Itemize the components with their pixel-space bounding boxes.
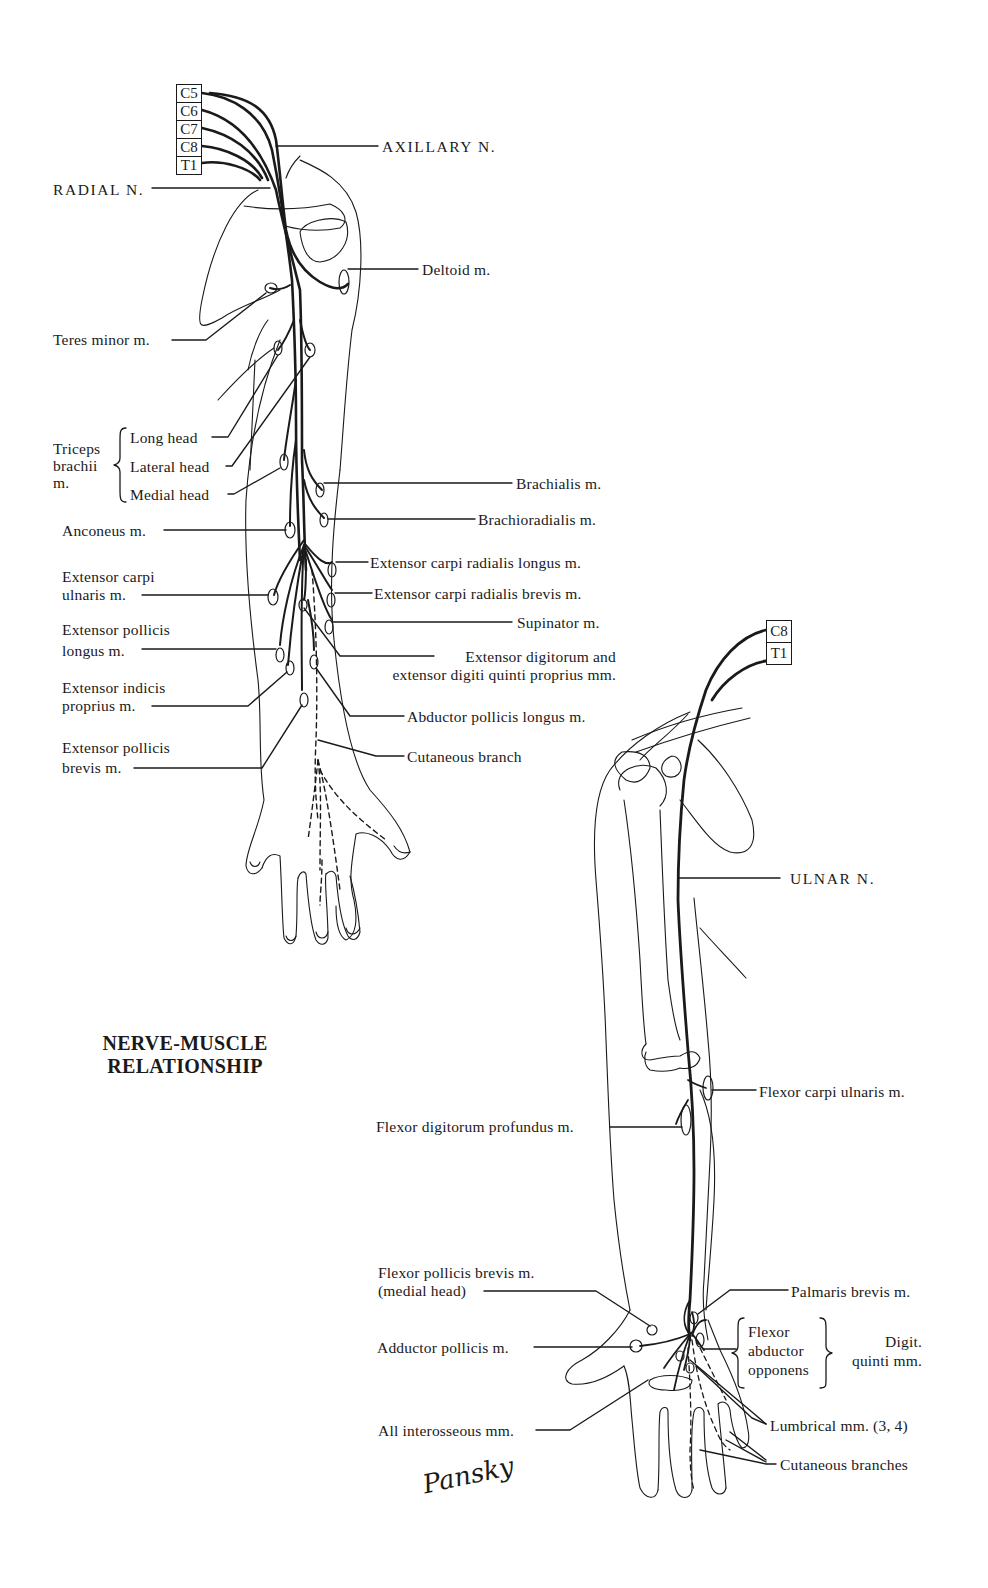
brachioradialis-label: Brachioradialis m.	[478, 510, 596, 529]
ulnar-leader-lines	[484, 878, 788, 1464]
extensor-pollicis-brevis-label: Extensor pollicis brevis m.	[62, 738, 170, 778]
extensor-pollicis-longus-label: Extensor pollicis longus m.	[62, 619, 170, 661]
radial-cutaneous-branch	[308, 570, 386, 905]
flexor-carpi-ulnaris-label: Flexor carpi ulnaris m.	[759, 1082, 905, 1101]
flexor-pollicis-brevis-label: Flexor pollicis brevis m. (medial head)	[378, 1264, 535, 1300]
ulnar-cutaneous-branches-label: Cutaneous branches	[780, 1455, 908, 1474]
ecrl-label: Extensor carpi radialis longus m.	[370, 553, 581, 572]
lateral-head-label: Lateral head	[130, 457, 209, 476]
medial-head-label: Medial head	[130, 485, 209, 504]
palmaris-brevis-label: Palmaris brevis m.	[791, 1282, 910, 1301]
title-line-2: RELATIONSHIP	[60, 1055, 310, 1078]
radial-root-box: C5 C6 C7 C8 T1	[176, 84, 202, 175]
ulnar-nerve-trunk	[678, 630, 766, 1340]
supinator-label: Supinator m.	[517, 613, 599, 632]
flexor-digitorum-profundus-label: Flexor digitorum profundus m.	[376, 1117, 574, 1136]
page-title: NERVE-MUSCLE RELATIONSHIP	[60, 1032, 310, 1078]
brachialis-label: Brachialis m.	[516, 474, 601, 493]
root-c5: C5	[177, 85, 201, 103]
root-c8: C8	[177, 139, 201, 157]
root-t1: T1	[177, 157, 201, 174]
triceps-group-label: Triceps brachii m.	[53, 440, 100, 491]
ulnar-root-box: C8 T1	[766, 620, 792, 665]
ulnar-arm-outline	[566, 708, 754, 1498]
triceps-line-2: brachii	[53, 457, 100, 474]
anconeus-label: Anconeus m.	[62, 521, 146, 540]
deltoid-label: Deltoid m.	[422, 260, 490, 279]
abductor-pollicis-longus-label: Abductor pollicis longus m.	[407, 707, 585, 726]
radial-nerve-label: RADIAL N.	[53, 180, 144, 199]
digiti-quinti-muscles-list: Flexor abductor opponens	[748, 1322, 809, 1379]
ecrb-label: Extensor carpi radialis brevis m.	[374, 584, 582, 603]
ulnar-muscle-markers	[630, 1076, 713, 1373]
braces	[114, 428, 832, 1388]
lumbrical-label: Lumbrical mm. (3, 4)	[770, 1416, 908, 1435]
triceps-line-3: m.	[53, 474, 100, 491]
long-head-label: Long head	[130, 428, 198, 447]
teres-minor-label: Teres minor m.	[53, 330, 150, 349]
ulnar-nerve-label: ULNAR N.	[790, 869, 875, 888]
axillary-nerve-label: AXILLARY N.	[382, 137, 496, 156]
title-line-1: NERVE-MUSCLE	[60, 1032, 310, 1055]
radial-cutaneous-branch-label: Cutaneous branch	[407, 747, 522, 766]
triceps-line-1: Triceps	[53, 440, 100, 457]
root-t1: T1	[767, 643, 791, 664]
interosseous-label: All interosseous mm.	[378, 1421, 514, 1440]
root-c8: C8	[767, 621, 791, 643]
digiti-quinti-group-label: Digit. quinti mm.	[830, 1332, 922, 1370]
root-c6: C6	[177, 103, 201, 121]
radial-nerve-trunks	[202, 93, 348, 570]
extensor-carpi-ulnaris-label: Extensor carpi ulnaris m.	[62, 568, 155, 604]
extensor-indicis-proprius-label: Extensor indicis proprius m.	[62, 679, 166, 715]
adductor-pollicis-label: Adductor pollicis m.	[377, 1338, 509, 1357]
extensor-digitorum-label: Extensor digitorum and extensor digiti q…	[354, 648, 616, 684]
root-c7: C7	[177, 121, 201, 139]
